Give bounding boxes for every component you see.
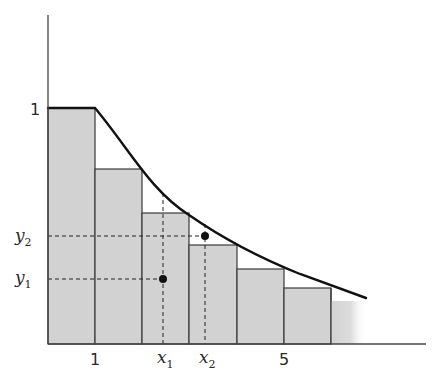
riemann-step-diagram: 1 y2 y1 1 x1 x2 5 <box>0 0 437 383</box>
bar-4 <box>189 245 237 344</box>
point-x2-y2 <box>201 232 209 240</box>
bar-6 <box>284 288 331 344</box>
x1-label: x1 <box>157 347 174 371</box>
bar-2 <box>95 169 142 344</box>
x-tick-1: 1 <box>90 350 100 369</box>
bar-5 <box>237 269 284 344</box>
y2-label: y2 <box>14 225 32 249</box>
x2-label: x2 <box>199 347 216 371</box>
bar-1 <box>48 108 95 344</box>
point-x1-y1 <box>159 275 167 283</box>
y1-label: y1 <box>14 267 32 291</box>
y-label-1: 1 <box>30 100 40 119</box>
bar-7-faded <box>331 301 367 344</box>
x-tick-5: 5 <box>279 350 289 369</box>
